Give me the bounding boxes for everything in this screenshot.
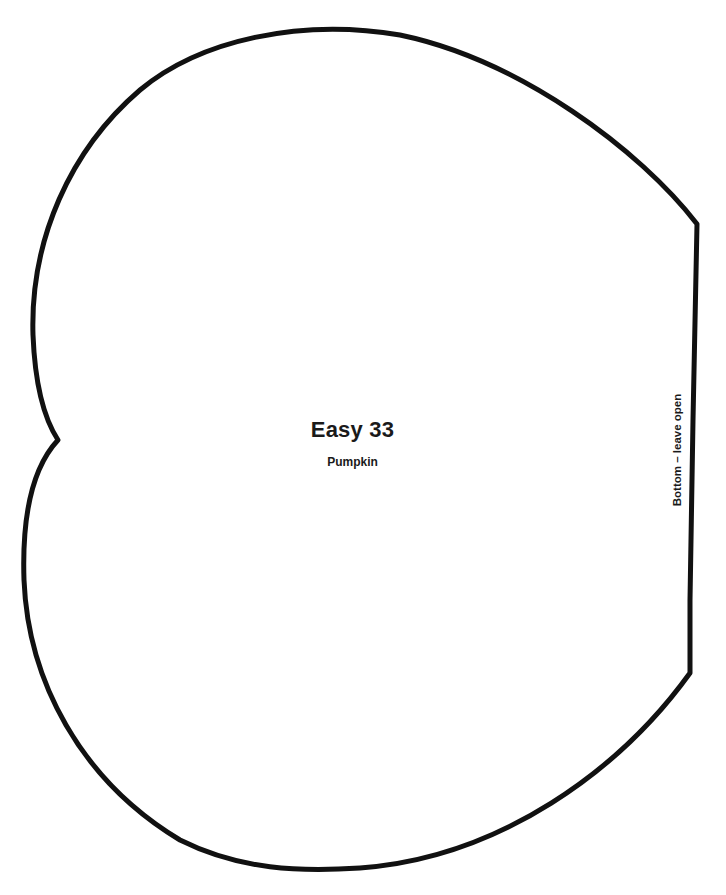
bottom-edge-note: Bottom – leave open [671, 394, 683, 506]
pattern-title: Easy 33 [0, 417, 705, 443]
pattern-page: Easy 33 Pumpkin Bottom – leave open [0, 0, 726, 895]
pumpkin-outline-shape [0, 0, 726, 895]
pattern-subtitle: Pumpkin [0, 455, 705, 469]
pumpkin-outline-path [24, 29, 697, 869]
